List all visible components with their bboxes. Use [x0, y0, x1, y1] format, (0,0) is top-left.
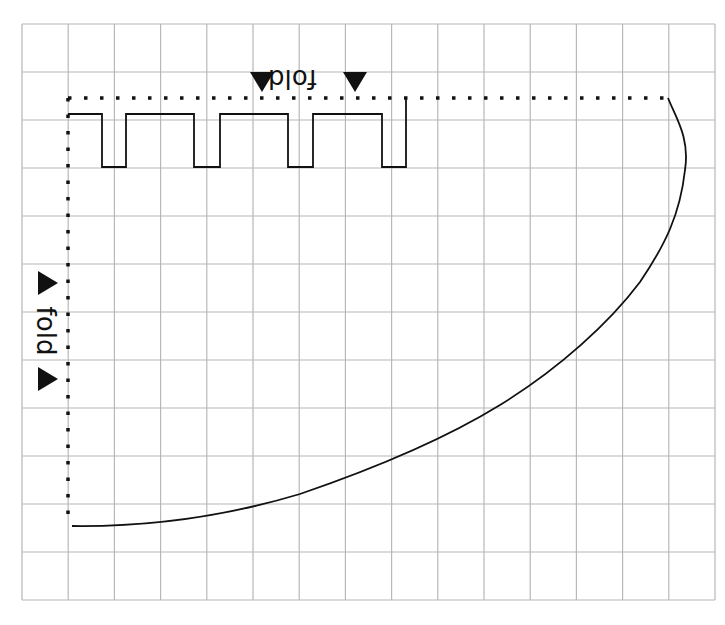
pattern-canvas [0, 0, 725, 625]
left-fold-arrow-bottom-icon [38, 367, 58, 391]
top-fold-arrow-right-icon [343, 72, 367, 92]
pattern-notched-edge [68, 98, 406, 167]
left-fold-arrow-top-icon [38, 271, 58, 295]
top-fold-label: fold [268, 66, 317, 92]
grid [22, 24, 715, 600]
left-fold-label: fold [33, 307, 59, 356]
